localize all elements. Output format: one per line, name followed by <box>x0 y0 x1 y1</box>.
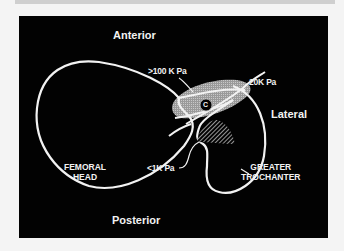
femoral-head-line2: HEAD <box>64 173 106 183</box>
label-medium-pressure: 20K Pa <box>249 78 276 87</box>
high-pressure-leader <box>179 78 193 92</box>
top-edge-strip <box>15 0 335 4</box>
label-greater-trochanter: GREATER TROCHANTER <box>241 163 301 183</box>
greater-trochanter-line2: TROCHANTER <box>241 173 301 183</box>
marker-label: C <box>203 101 208 108</box>
lower-neck-line <box>169 124 191 136</box>
diagram-panel: C Anterior Lateral Posterior >100 K Pa 2… <box>19 16 328 238</box>
low-pressure-leader <box>179 142 199 168</box>
label-posterior: Posterior <box>112 215 160 226</box>
label-lateral: Lateral <box>271 109 307 120</box>
femur-cross-section-drawing <box>19 16 328 238</box>
label-anterior: Anterior <box>113 30 156 41</box>
label-low-pressure: <1K Pa <box>147 164 174 173</box>
label-femoral-head: FEMORAL HEAD <box>64 163 106 183</box>
label-high-pressure: >100 K Pa <box>148 67 187 76</box>
low-pressure-zone <box>197 120 235 144</box>
